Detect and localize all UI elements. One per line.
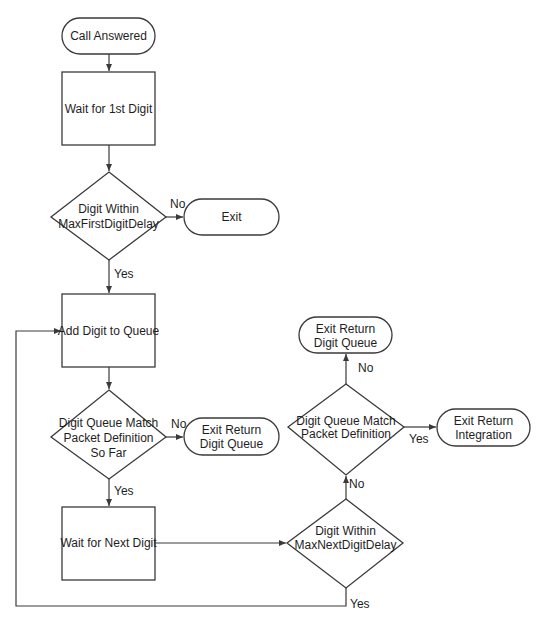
edge-label-next-yes: Yes bbox=[350, 597, 370, 611]
exit-label: Exit bbox=[221, 210, 242, 224]
node-decision-next-digit: Digit Within MaxNextDigitDelay bbox=[287, 499, 403, 588]
node-add-digit: Add Digit to Queue bbox=[58, 294, 160, 367]
edge-label-so-far-no: No bbox=[171, 417, 187, 431]
decision-so-far-line3: So Far bbox=[90, 446, 126, 460]
decision-next-line2: MaxNextDigitDelay bbox=[294, 538, 396, 552]
node-call-answered: Call Answered bbox=[62, 18, 155, 54]
decision-first-line1: Digit Within bbox=[78, 202, 139, 216]
exit-queue-2-line1: Exit Return bbox=[316, 322, 375, 336]
edge-label-first-yes: Yes bbox=[114, 267, 134, 281]
wait-next-digit-label: Wait for Next Digit bbox=[60, 536, 157, 550]
node-exit-return-queue-2: Exit Return Digit Queue bbox=[299, 317, 392, 353]
exit-queue-1-line2: Digit Queue bbox=[200, 437, 264, 451]
exit-integration-line1: Exit Return bbox=[454, 414, 513, 428]
decision-next-line1: Digit Within bbox=[315, 524, 376, 538]
decision-first-line2: MaxFirstDigitDelay bbox=[58, 217, 159, 231]
node-decision-match-so-far: Digit Queue Match Packet Definition So F… bbox=[51, 390, 166, 479]
exit-queue-1-line1: Exit Return bbox=[202, 423, 261, 437]
wait-first-digit-label: Wait for 1st Digit bbox=[65, 102, 153, 116]
edge-label-match-yes: Yes bbox=[409, 432, 429, 446]
node-decision-match: Digit Queue Match Packet Definition bbox=[288, 384, 404, 475]
edge-label-match-no: No bbox=[358, 361, 374, 375]
decision-so-far-line1: Digit Queue Match bbox=[59, 416, 158, 430]
decision-so-far-line2: Packet Definition bbox=[63, 431, 153, 445]
flowchart-canvas: Call Answered Wait for 1st Digit Digit W… bbox=[0, 0, 544, 626]
edge-label-so-far-yes: Yes bbox=[114, 484, 134, 498]
node-decision-first-digit: Digit Within MaxFirstDigitDelay bbox=[51, 172, 166, 260]
node-exit-return-queue-1: Exit Return Digit Queue bbox=[184, 418, 279, 455]
decision-match-line1: Digit Queue Match bbox=[296, 414, 395, 428]
node-wait-first-digit: Wait for 1st Digit bbox=[62, 72, 155, 145]
node-exit-return-integration: Exit Return Integration bbox=[437, 409, 530, 446]
edge-label-next-no: No bbox=[349, 477, 365, 491]
exit-queue-2-line2: Digit Queue bbox=[314, 336, 378, 350]
exit-integration-line2: Integration bbox=[455, 428, 512, 442]
add-digit-label: Add Digit to Queue bbox=[58, 324, 160, 338]
edge-label-first-no: No bbox=[170, 197, 186, 211]
decision-match-line2: Packet Definition bbox=[301, 427, 391, 441]
node-exit: Exit bbox=[184, 199, 279, 235]
call-answered-label: Call Answered bbox=[70, 29, 147, 43]
node-wait-next-digit: Wait for Next Digit bbox=[60, 507, 157, 580]
